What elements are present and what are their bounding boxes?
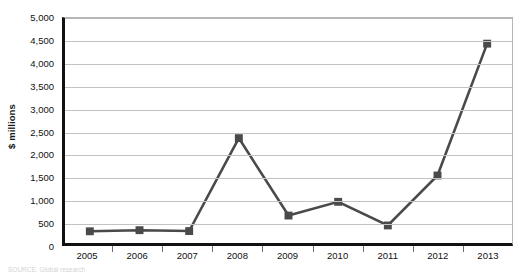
x-axis-tick-labels: 200520062007200820092010201120122013 (62, 250, 513, 266)
y-axis-tick-label: 3,500 (30, 80, 54, 91)
gridline (65, 224, 512, 225)
y-axis-tick-label: 2,500 (30, 126, 54, 137)
y-axis-tick-label: 2,000 (30, 149, 54, 160)
data-point-marker[interactable] (384, 222, 392, 230)
x-axis-tick-label: 2012 (427, 250, 448, 261)
gridline (65, 41, 512, 42)
y-axis-tick-labels: 05001,0001,5002,0002,5003,0003,5004,0004… (20, 17, 58, 246)
x-axis-tick-label: 2013 (477, 250, 498, 261)
x-axis-tick-label: 2005 (76, 250, 97, 261)
x-axis-tick-label: 2006 (127, 250, 148, 261)
x-axis-tick-label: 2010 (327, 250, 348, 261)
source-note: SOURCE: Global research (8, 266, 85, 275)
data-point-marker[interactable] (86, 227, 94, 235)
series-line (90, 44, 487, 232)
x-axis-tick-label: 2009 (277, 250, 298, 261)
line-chart-figure: $ millions 05001,0001,5002,0002,5003,000… (0, 0, 528, 275)
gridline (65, 155, 512, 156)
series-plot (65, 18, 512, 243)
gridline (65, 18, 512, 19)
data-point-marker[interactable] (185, 227, 193, 235)
y-axis-tick-label: 1,000 (30, 195, 54, 206)
data-point-marker[interactable] (136, 226, 144, 234)
y-axis-tick-label: 3,000 (30, 103, 54, 114)
gridline (65, 110, 512, 111)
y-axis-tick-label: 4,000 (30, 57, 54, 68)
gridline (65, 87, 512, 88)
y-axis-tick-label: 5,000 (30, 12, 54, 23)
plot-area (62, 17, 513, 246)
x-axis-tick-label: 2007 (177, 250, 198, 261)
gridline (65, 201, 512, 202)
y-axis-tick-label: 500 (38, 218, 54, 229)
gridline (65, 64, 512, 65)
y-axis-title: $ millions (0, 0, 22, 252)
x-axis-tick-label: 2008 (227, 250, 248, 261)
gridline (65, 133, 512, 134)
x-axis-tick-label: 2011 (378, 250, 398, 261)
y-axis-tick-label: 1,500 (30, 172, 54, 183)
y-axis-title-label: $ millions (6, 104, 17, 149)
gridline (65, 178, 512, 179)
y-axis-tick-label: 0 (49, 241, 54, 252)
data-point-marker[interactable] (235, 134, 243, 142)
y-axis-tick-label: 4,500 (30, 34, 54, 45)
data-point-marker[interactable] (285, 212, 293, 220)
